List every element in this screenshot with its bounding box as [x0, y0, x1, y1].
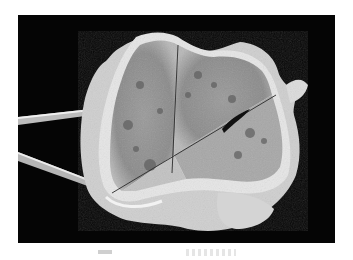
figure-caption	[0, 246, 353, 260]
specimen-illustration	[18, 15, 335, 243]
specimen-photo	[18, 15, 335, 243]
caption-text-illegible	[186, 249, 236, 256]
caption-mark	[98, 250, 112, 254]
